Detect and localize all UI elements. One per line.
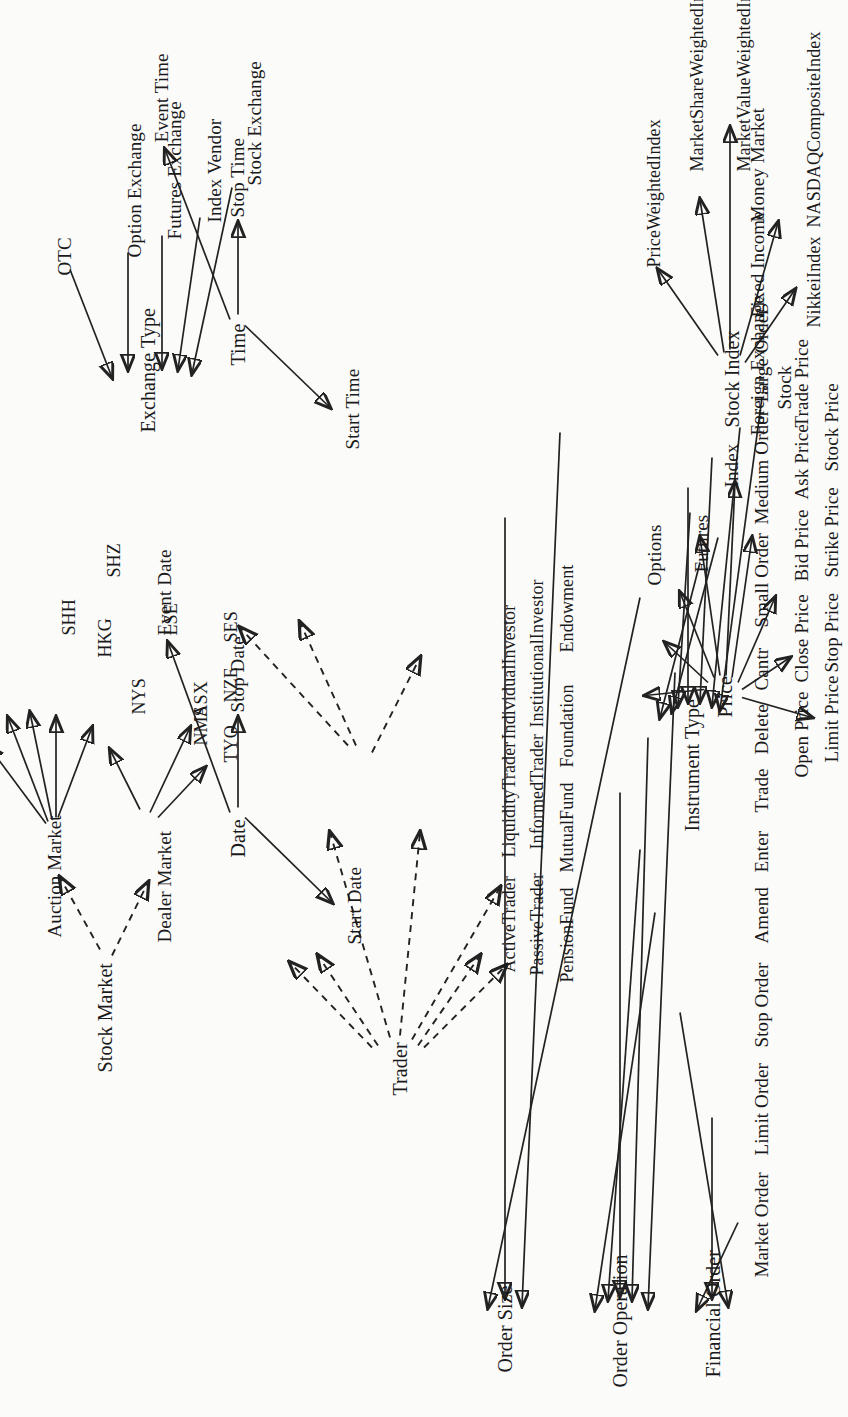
node-index[interactable]: Index — [722, 443, 741, 487]
node-order-operation[interactable]: Order Operation — [610, 1254, 630, 1387]
node-delete[interactable]: Delete — [752, 704, 771, 754]
node-option-exchange[interactable]: Option Exchange — [125, 123, 144, 257]
node-nikkei-index[interactable]: NikkeiIndex — [805, 236, 823, 327]
node-price-weighted-index[interactable]: PriceWeightedIndex — [645, 119, 663, 267]
node-date[interactable]: Date — [228, 819, 248, 857]
node-trade[interactable]: Trade — [752, 768, 771, 812]
node-informed-trader[interactable]: InformedTrader — [528, 733, 546, 849]
taxonomy-diagram-canvas: Financial Order Market Order Limit Order… — [0, 0, 848, 1417]
node-individual-investor[interactable]: IndividualInvestor — [500, 604, 518, 739]
node-options[interactable]: Options — [645, 524, 664, 585]
node-nze[interactable]: NZE — [222, 667, 240, 702]
node-limit-price[interactable]: Limit Price — [822, 675, 841, 762]
node-start-date[interactable]: Start Date — [345, 866, 364, 944]
node-institutional-investor[interactable]: InstitutionalInvestor — [528, 579, 546, 727]
node-stop-price[interactable]: Stop Price — [822, 592, 841, 672]
node-index-vendor[interactable]: Index Vendor — [205, 118, 224, 222]
node-stock-price[interactable]: Stock Price — [822, 383, 841, 471]
node-passive-trader[interactable]: PassiveTrader — [528, 872, 546, 975]
node-stock-market[interactable]: Stock Market — [95, 962, 115, 1072]
node-market-share-weighted-index[interactable]: MarketShareWeightedIndex — [688, 0, 706, 171]
node-active-trader[interactable]: ActiveTrader — [500, 875, 518, 972]
node-price[interactable]: Price — [715, 675, 735, 717]
node-futures[interactable]: Futures — [692, 514, 711, 572]
node-stock-exchange[interactable]: Stock Exchange — [245, 61, 264, 185]
node-dealer-market[interactable]: Dealer Market — [155, 830, 174, 942]
node-futures-exchange[interactable]: Futures Exchange — [165, 101, 184, 239]
node-market-value-weighted-index[interactable]: MarketValueWeightedIndex — [735, 0, 753, 171]
node-close-price[interactable]: Close Price — [792, 594, 811, 682]
node-amend[interactable]: Amend — [752, 887, 771, 943]
node-foundation[interactable]: Foundation — [558, 684, 576, 767]
node-bid-price[interactable]: Bid Price — [792, 509, 811, 581]
node-nasdaq-composite-index[interactable]: NASDAQCompositeIndex — [805, 31, 823, 227]
node-stop-order[interactable]: Stop Order — [752, 962, 771, 1047]
rotated-page-wrapper: Financial Order Market Order Limit Order… — [0, 0, 848, 1417]
node-open-price[interactable]: Open Price — [792, 691, 811, 777]
node-ask-price[interactable]: Ask Price — [792, 424, 811, 499]
node-nys[interactable]: NYS — [130, 678, 148, 714]
node-endowment[interactable]: Endowment — [558, 564, 576, 652]
node-start-time[interactable]: Start Time — [343, 368, 362, 449]
node-asx[interactable]: ASX — [192, 681, 210, 717]
node-otc[interactable]: OTC — [55, 237, 74, 275]
node-stock-index[interactable]: Stock Index — [722, 330, 742, 427]
node-order-size[interactable]: Order Size — [495, 1285, 515, 1372]
node-trader[interactable]: Trader — [390, 1042, 410, 1095]
node-fixed-income[interactable]: Fixed Income — [748, 211, 767, 317]
node-instrument-type[interactable]: Instrument Type — [682, 699, 702, 832]
node-auction-market[interactable]: Auction Market — [45, 815, 64, 937]
node-exchange-type[interactable]: Exchange Type — [138, 308, 158, 432]
node-market-order[interactable]: Market Order — [752, 1172, 771, 1277]
node-stock[interactable]: Stock — [775, 365, 794, 409]
node-ses[interactable]: SES — [222, 611, 240, 642]
node-mutual-fund[interactable]: MutualFund — [558, 782, 576, 872]
node-tyo[interactable]: TYO — [222, 725, 240, 762]
node-liquidity-trader[interactable]: LiquidityTrader — [500, 741, 518, 857]
node-limit-order[interactable]: Limit Order — [752, 1063, 771, 1155]
node-hkg[interactable]: HKG — [96, 618, 114, 657]
node-enter[interactable]: Enter — [752, 830, 771, 872]
node-lse[interactable]: LSE — [162, 603, 180, 635]
node-cantr[interactable]: Cantr — [752, 647, 771, 690]
node-strike-price[interactable]: Strike Price — [822, 487, 841, 577]
node-shz[interactable]: SHZ — [105, 543, 123, 577]
node-shh[interactable]: SHH — [60, 599, 78, 635]
node-financial-order[interactable]: Financial Order — [703, 1249, 723, 1377]
node-small-order[interactable]: Small Order — [752, 533, 771, 628]
node-time[interactable]: Time — [228, 323, 248, 365]
node-pension-fund[interactable]: PensionFund — [558, 887, 576, 982]
